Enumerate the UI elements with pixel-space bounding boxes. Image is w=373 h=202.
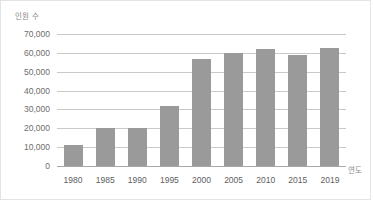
bar-slot <box>314 34 346 166</box>
x-tick-slot: 2010 <box>250 169 282 187</box>
y-axis-title: 인원 수 <box>15 10 39 21</box>
x-axis-tick-label: 1995 <box>160 175 179 185</box>
x-tick-slot: 2019 <box>314 169 346 187</box>
x-axis-tick-label: 2005 <box>224 175 243 185</box>
y-axis-tick-label: 40,000 <box>24 86 50 96</box>
x-tick-slot: 2000 <box>185 169 217 187</box>
x-tick-slot: 1985 <box>89 169 121 187</box>
bar-1980 <box>64 145 83 166</box>
bar-slot <box>218 34 250 166</box>
y-axis-tick-label: 70,000 <box>24 29 50 39</box>
y-axis-tick-label: 20,000 <box>24 123 50 133</box>
x-tick-slot: 1990 <box>121 169 153 187</box>
x-axis-tick-label: 2000 <box>192 175 211 185</box>
x-axis-tick-label: 2010 <box>256 175 275 185</box>
x-axis-tick-labels: 198019851990199520002005201020152019 <box>57 169 346 187</box>
y-axis-tick-label: 50,000 <box>24 67 50 77</box>
y-axis-tick-label: 60,000 <box>24 48 50 58</box>
x-axis-tick-label: 2019 <box>320 175 339 185</box>
bar-slot <box>89 34 121 166</box>
y-axis-tick-label: 0 <box>45 161 50 171</box>
y-axis-tick-label: 10,000 <box>24 142 50 152</box>
x-axis-tick-label: 1980 <box>64 175 83 185</box>
x-axis-tick-label: 2015 <box>288 175 307 185</box>
bar-slot <box>185 34 217 166</box>
bar-2019 <box>320 48 339 166</box>
x-axis-line <box>57 166 346 167</box>
plot-area: 010,00020,00030,00040,00050,00060,00070,… <box>57 34 346 166</box>
bar-1990 <box>128 128 147 166</box>
bar-2010 <box>256 49 275 166</box>
bars-group <box>57 34 346 166</box>
x-tick-slot: 2005 <box>218 169 250 187</box>
bar-chart-figure: 인원 수 010,00020,00030,00040,00050,00060,0… <box>0 0 371 200</box>
x-axis-tick-label: 1990 <box>128 175 147 185</box>
bar-slot <box>282 34 314 166</box>
bar-2015 <box>288 55 307 166</box>
bar-slot <box>153 34 185 166</box>
bar-slot <box>121 34 153 166</box>
x-tick-slot: 1980 <box>57 169 89 187</box>
x-axis-title: 연도 <box>348 164 362 175</box>
x-tick-slot: 1995 <box>153 169 185 187</box>
bar-2000 <box>192 59 211 166</box>
x-axis-tick-label: 1985 <box>96 175 115 185</box>
bar-slot <box>250 34 282 166</box>
bar-1995 <box>160 106 179 166</box>
bar-2005 <box>224 53 243 166</box>
x-tick-slot: 2015 <box>282 169 314 187</box>
bar-slot <box>57 34 89 166</box>
bar-1985 <box>96 128 115 166</box>
y-axis-tick-label: 30,000 <box>24 104 50 114</box>
